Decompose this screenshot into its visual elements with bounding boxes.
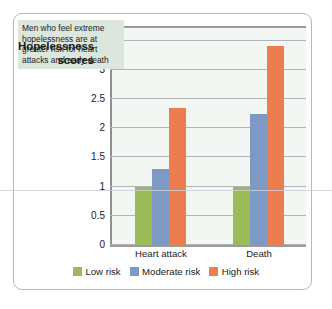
y-tick-label: 0.5 (91, 209, 105, 220)
category-label: Death (246, 248, 272, 259)
legend-swatch (209, 267, 218, 276)
y-tick-label: 1.5 (91, 151, 105, 162)
legend-label: Low risk (85, 266, 120, 277)
bar (267, 46, 284, 245)
legend-item: Moderate risk (130, 266, 201, 277)
scan-artifact-line (0, 190, 332, 191)
legend-item: High risk (209, 266, 259, 277)
category-label: Heart attack (135, 248, 187, 259)
bar (233, 187, 250, 245)
bar (135, 187, 152, 245)
chart-legend: Low riskModerate riskHigh risk (0, 266, 332, 277)
gridline: 0 (110, 244, 306, 245)
bar (169, 108, 186, 245)
y-axis-title-line-1: Hopelessness (18, 40, 94, 54)
legend-label: High risk (222, 266, 259, 277)
legend-swatch (73, 267, 82, 276)
bars-layer (110, 28, 306, 245)
y-axis-title-line-2: scores (18, 54, 94, 68)
y-tick-label: 2.5 (91, 93, 105, 104)
bar (152, 169, 169, 245)
bar (250, 114, 267, 245)
legend-label: Moderate risk (142, 266, 200, 277)
legend-item: Low risk (73, 266, 121, 277)
y-tick-label: 0 (99, 239, 105, 250)
y-axis-title: Hopelessness scores (18, 40, 94, 67)
y-tick-label: 2 (99, 122, 105, 133)
legend-swatch (130, 267, 139, 276)
plot-area: 00.511.522.533.5 (110, 26, 306, 245)
